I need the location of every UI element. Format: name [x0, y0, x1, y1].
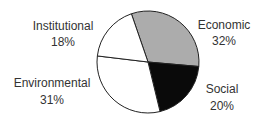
label-institutional-pct: 18% [51, 35, 75, 49]
label-environmental-pct: 31% [40, 93, 64, 107]
label-economic-name: Economic [198, 18, 251, 32]
label-social-pct: 20% [210, 99, 234, 113]
pie-chart: Economic 32% Social 20% Environmental 31… [0, 0, 262, 122]
label-environmental-name: Environmental [14, 76, 91, 90]
label-institutional-name: Institutional [33, 19, 94, 33]
pie-slices [97, 11, 199, 113]
label-economic-pct: 32% [212, 34, 236, 48]
label-social-name: Social [206, 82, 239, 96]
